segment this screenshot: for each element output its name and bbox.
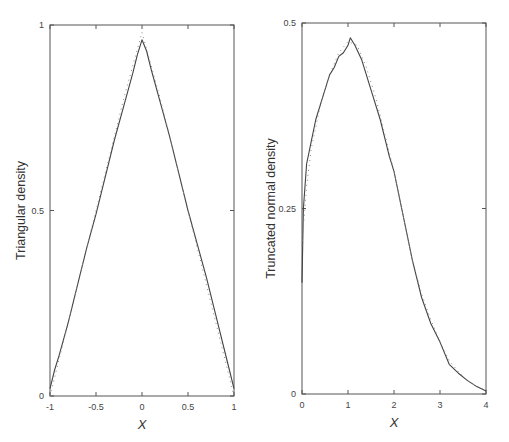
x-axis-title: X — [389, 415, 400, 430]
x-tick-label: 0 — [299, 400, 304, 410]
x-tick-label: -1 — [46, 402, 54, 412]
plot-frame — [302, 23, 486, 394]
y-tick-label: 0.5 — [283, 18, 296, 28]
y-axis-title: Triangular density — [14, 160, 28, 260]
x-axis-title: X — [137, 417, 148, 432]
x-tick-label: 0.5 — [182, 402, 195, 412]
estimated-density-line — [302, 38, 486, 391]
x-tick-label: 2 — [391, 400, 396, 410]
y-tick-label: 0.25 — [278, 204, 296, 214]
y-tick-label: 0 — [39, 391, 44, 401]
estimated-density-line — [50, 40, 234, 389]
y-axis-title: Truncated normal density — [264, 137, 278, 278]
figure-canvas: -1-0.500.5100.51XTriangular density01234… — [0, 0, 509, 442]
y-tick-label: 0.5 — [31, 206, 44, 216]
chart-truncated-normal: 0123400.250.5XTruncated normal density — [264, 18, 489, 430]
plot-frame — [50, 25, 234, 396]
chart-triangular: -1-0.500.5100.51XTriangular density — [14, 20, 237, 432]
x-tick-label: 1 — [345, 400, 350, 410]
x-tick-label: 4 — [483, 400, 488, 410]
true-density-line — [302, 42, 486, 391]
true-density-line — [50, 32, 234, 396]
x-tick-label: 1 — [231, 402, 236, 412]
x-tick-label: -0.5 — [88, 402, 104, 412]
y-tick-label: 0 — [291, 389, 296, 399]
x-tick-label: 3 — [437, 400, 442, 410]
y-tick-label: 1 — [39, 20, 44, 30]
x-tick-label: 0 — [139, 402, 144, 412]
